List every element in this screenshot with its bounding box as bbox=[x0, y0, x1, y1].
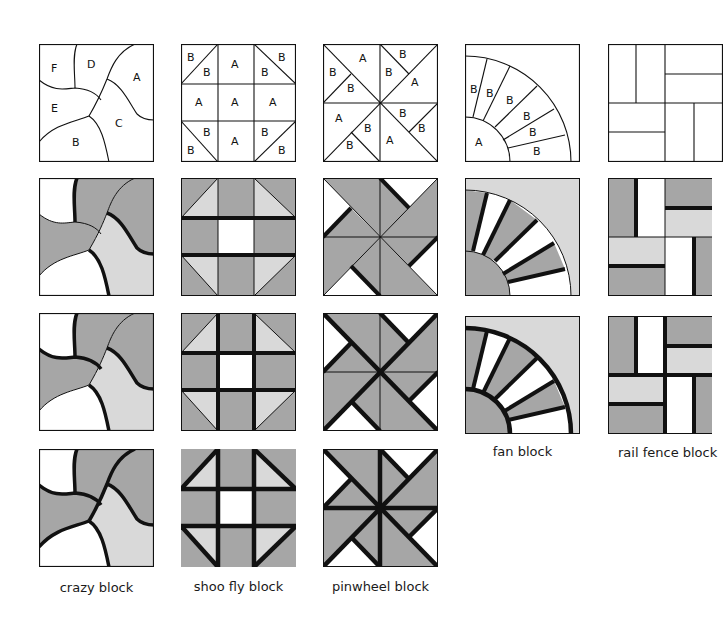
svg-text:B: B bbox=[72, 136, 80, 149]
svg-text:B: B bbox=[278, 144, 286, 157]
svg-text:B: B bbox=[278, 51, 286, 64]
svg-text:A: A bbox=[231, 135, 239, 148]
svg-text:B: B bbox=[347, 82, 355, 95]
shoofly-block-colored-3 bbox=[181, 449, 296, 567]
crazy-block-colored-1 bbox=[39, 178, 154, 296]
pinwheel-block-colored-3 bbox=[323, 449, 438, 567]
svg-text:A: A bbox=[335, 112, 343, 125]
pinwheel-block-template: A B B B B A A B B B A B bbox=[323, 44, 438, 162]
svg-text:A: A bbox=[133, 71, 141, 84]
svg-text:A: A bbox=[231, 96, 239, 109]
railfence-block-colored-2 bbox=[608, 316, 712, 434]
caption-shoofly-block: shoo fly block bbox=[181, 579, 296, 594]
svg-text:B: B bbox=[346, 139, 354, 152]
svg-text:B: B bbox=[364, 122, 372, 135]
fan-block-colored-1 bbox=[465, 178, 580, 296]
svg-text:A: A bbox=[411, 76, 419, 89]
svg-text:A: A bbox=[269, 96, 277, 109]
svg-text:E: E bbox=[51, 102, 58, 115]
svg-text:B: B bbox=[486, 87, 494, 100]
shoofly-block-template: B B A B B A A A B B A B B bbox=[181, 44, 296, 162]
svg-text:B: B bbox=[187, 51, 195, 64]
svg-text:B: B bbox=[261, 126, 269, 139]
svg-text:C: C bbox=[115, 117, 123, 130]
svg-text:B: B bbox=[385, 66, 393, 79]
svg-text:B: B bbox=[523, 110, 531, 123]
fan-block-template: B B B B B B A bbox=[465, 44, 580, 162]
railfence-block-colored-1 bbox=[608, 178, 712, 296]
railfence-block-template bbox=[608, 44, 718, 162]
svg-text:A: A bbox=[231, 58, 239, 71]
svg-text:B: B bbox=[203, 126, 211, 139]
crazy-block-template: F D A E C B bbox=[39, 44, 154, 162]
svg-text:B: B bbox=[203, 66, 211, 79]
svg-text:A: A bbox=[386, 134, 394, 147]
svg-text:B: B bbox=[506, 94, 514, 107]
svg-text:B: B bbox=[261, 66, 269, 79]
caption-pinwheel-block: pinwheel block bbox=[323, 579, 438, 594]
caption-railfence-block: rail fence block bbox=[598, 445, 727, 460]
svg-text:B: B bbox=[529, 126, 537, 139]
svg-text:B: B bbox=[418, 122, 426, 135]
svg-text:B: B bbox=[399, 48, 407, 61]
svg-text:A: A bbox=[475, 136, 483, 149]
svg-text:B: B bbox=[187, 144, 195, 157]
pinwheel-block-colored-1 bbox=[323, 178, 438, 296]
svg-text:B: B bbox=[329, 66, 337, 79]
shoofly-block-colored-1 bbox=[181, 178, 296, 296]
svg-text:F: F bbox=[51, 62, 57, 75]
svg-text:B: B bbox=[533, 145, 541, 158]
crazy-block-colored-3 bbox=[39, 449, 154, 567]
crazy-block-colored-2 bbox=[39, 313, 154, 431]
svg-text:B: B bbox=[470, 83, 478, 96]
shoofly-block-colored-2 bbox=[181, 313, 296, 431]
svg-text:A: A bbox=[359, 52, 367, 65]
svg-text:D: D bbox=[87, 58, 95, 71]
caption-crazy-block: crazy block bbox=[39, 580, 154, 595]
svg-text:A: A bbox=[195, 96, 203, 109]
svg-text:B: B bbox=[399, 107, 407, 120]
pinwheel-block-colored-2 bbox=[323, 313, 438, 431]
fan-block-colored-2 bbox=[465, 316, 580, 434]
caption-fan-block: fan block bbox=[465, 444, 580, 459]
